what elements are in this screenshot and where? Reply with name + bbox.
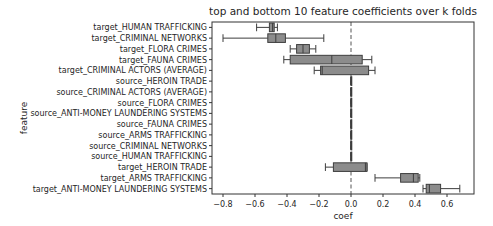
x-tick-label: −0.8 [213,200,232,209]
y-tick-label: source_CRIMINAL ACTORS (AVERAGE) [56,88,207,97]
y-tick-label: source_ANTI-MONEY LAUNDERING SYSTEMS [30,109,207,118]
x-tick-label: 0.0 [345,200,358,209]
y-tick-label: target_ANTI-MONEY LAUNDERING SYSTEMS [33,185,207,194]
y-axis-label: feature [19,101,29,134]
plot-area: target_HUMAN TRAFFICKINGtarget_CRIMINAL … [30,22,474,209]
y-tick-label: target_FLORA CRIMES [120,45,207,54]
box [401,174,419,183]
box [268,34,286,43]
x-tick-label: −0.2 [309,200,328,209]
y-tick-label: source_HEROIN TRADE [116,77,207,86]
y-tick-label: source_FAUNA CRIMES [117,120,207,129]
x-axis-label: coef [333,211,353,221]
chart-title: top and bottom 10 feature coefficients o… [209,5,477,17]
x-tick-label: 0.6 [441,200,454,209]
y-tick-label: target_FAUNA CRIMES [119,56,207,65]
boxplot-chart: top and bottom 10 feature coefficients o… [0,0,493,226]
box [290,55,362,64]
box [321,66,369,75]
y-tick-label: target_ARMS TRAFFICKING [101,174,207,183]
x-tick-label: 0.2 [377,200,390,209]
y-tick-label: target_HUMAN TRAFFICKING [93,23,207,32]
y-tick-label: target_HEROIN TRADE [118,163,207,172]
y-tick-label: target_CRIMINAL NETWORKS [91,34,207,43]
y-tick-label: source_CRIMINAL NETWORKS [89,142,207,151]
x-tick-label: −0.4 [277,200,296,209]
y-tick-label: source_HUMAN TRAFFICKING [91,152,207,161]
box [333,163,367,172]
y-tick-label: source_FLORA CRIMES [118,99,207,108]
box [269,23,274,32]
x-tick-label: −0.6 [245,200,264,209]
y-tick-label: source_ARMS TRAFFICKING [98,131,207,140]
box [426,184,440,193]
y-tick-label: target_CRIMINAL ACTORS (AVERAGE) [59,66,207,75]
x-tick-label: 0.4 [409,200,422,209]
